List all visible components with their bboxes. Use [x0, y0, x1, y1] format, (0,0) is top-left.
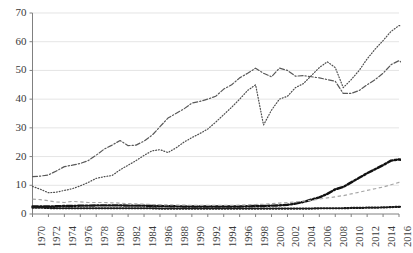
x-axis-tick-label: 2012 [371, 226, 381, 247]
x-axis-tick-label: 2004 [307, 226, 317, 247]
y-axis-tick-label: 70 [3, 7, 27, 18]
x-axis-tick-label: 1988 [180, 226, 190, 247]
x-axis-tick-label: 1976 [84, 226, 94, 247]
x-axis-tick-label: 1994 [228, 226, 238, 247]
x-axis-tick-label: 1978 [100, 226, 110, 247]
x-axis-tick-label: 1980 [116, 226, 126, 247]
series-line-1 [33, 61, 402, 177]
series-line-3 [33, 159, 402, 206]
x-axis-tick-label: 1996 [244, 226, 254, 247]
series-line-2 [33, 26, 402, 193]
x-axis-tick-label: 1990 [196, 226, 206, 247]
y-axis-tick-label: 0 [3, 208, 27, 219]
x-axis-tick-label: 1970 [37, 226, 47, 247]
y-axis-tick-label: 50 [3, 64, 27, 75]
x-axis-tick-label: 1972 [52, 226, 62, 247]
x-axis-tick-label: 2010 [355, 226, 365, 247]
x-axis-tick-label: 1982 [132, 226, 142, 247]
y-axis-tick-label: 20 [3, 151, 27, 162]
y-axis-tick-label: 10 [3, 179, 27, 190]
x-axis-tick-label: 2000 [276, 226, 286, 247]
x-axis-tick-label: 1998 [260, 226, 270, 247]
x-axis-tick-label: 2008 [339, 226, 349, 247]
x-axis-tick-label: 1974 [68, 226, 78, 247]
x-axis-tick-label: 2016 [403, 226, 413, 247]
x-axis-tick-label: 2006 [323, 226, 333, 247]
y-axis-tick-label: 30 [3, 122, 27, 133]
x-axis-tick-label: 2014 [387, 226, 397, 247]
x-axis-tick-label: 2002 [291, 226, 301, 247]
x-axis-tick-label: 1992 [212, 226, 222, 247]
y-axis-tick-label: 60 [3, 36, 27, 47]
x-axis-tick-label: 1986 [164, 226, 174, 247]
x-axis-tick-label: 1984 [148, 226, 158, 247]
y-axis-tick-label: 40 [3, 93, 27, 104]
